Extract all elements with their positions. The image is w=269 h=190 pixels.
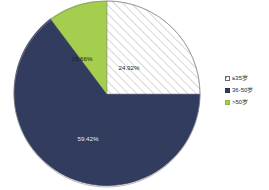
slice-value-under-35: 24.92% bbox=[119, 64, 140, 71]
legend-swatch-icon-over-50 bbox=[225, 100, 230, 105]
pie-chart-figure: 24.92% 59.42% 15.66% ≤35岁 36-50岁 >50岁 bbox=[0, 0, 269, 190]
slice-value-over-50: 15.66% bbox=[72, 55, 93, 62]
legend-item-over-50: >50岁 bbox=[225, 96, 269, 108]
chart-legend: ≤35岁 36-50岁 >50岁 bbox=[225, 72, 269, 108]
pie-chart-svg: 24.92% 59.42% 15.66% bbox=[0, 0, 215, 190]
pie-slice-under-35 bbox=[107, 1, 200, 94]
slice-value-36-50: 59.42% bbox=[78, 135, 99, 142]
legend-label-under-35: ≤35岁 bbox=[232, 75, 248, 82]
legend-swatch-icon-36-50 bbox=[225, 88, 230, 93]
legend-swatch-icon-under-35 bbox=[225, 76, 230, 81]
legend-label-36-50: 36-50岁 bbox=[232, 87, 253, 94]
legend-label-over-50: >50岁 bbox=[232, 99, 248, 106]
pie-chart-plot-area: 24.92% 59.42% 15.66% bbox=[0, 0, 215, 190]
legend-item-36-50: 36-50岁 bbox=[225, 84, 269, 96]
legend-item-under-35: ≤35岁 bbox=[225, 72, 269, 84]
